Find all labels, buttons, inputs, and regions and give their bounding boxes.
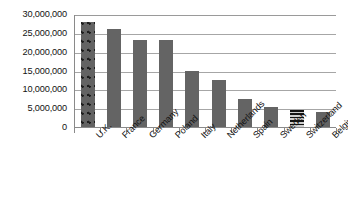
y-axis-tick-label: 10,000,000 xyxy=(23,86,67,95)
y-axis: 30,000,00025,000,00020,000,00015,000,000… xyxy=(0,0,70,200)
y-axis-tick-label: 0 xyxy=(62,123,67,132)
bar-slot xyxy=(179,15,205,127)
bar-series xyxy=(75,15,336,127)
y-axis-tick-label: 30,000,000 xyxy=(23,10,67,19)
x-axis-category-label: Germany xyxy=(147,133,154,140)
x-axis-category-label: France xyxy=(120,133,127,140)
bar-u-k xyxy=(81,22,95,127)
y-axis-tick-label: 25,000,000 xyxy=(23,29,67,38)
bar-slot xyxy=(284,15,310,127)
bar-chart: 30,000,00025,000,00020,000,00015,000,000… xyxy=(0,0,348,200)
x-axis: U.K.FranceGermanyPolandItalyNetherlandsS… xyxy=(74,133,348,200)
bar-france xyxy=(107,29,121,127)
bar-slot xyxy=(127,15,153,127)
x-axis-category-label: Netherlands xyxy=(225,133,232,140)
y-axis-tick-label: 20,000,000 xyxy=(23,48,67,57)
x-axis-category-label: Switzerland xyxy=(304,133,311,140)
x-axis-category-label: Italy xyxy=(199,133,206,140)
y-axis-tick-label: 5,000,000 xyxy=(27,105,67,114)
x-axis-category-label: U.K. xyxy=(94,133,101,140)
x-axis-category-label: Sweden xyxy=(278,133,285,140)
bar-slot xyxy=(101,15,127,127)
plot-area xyxy=(74,15,336,128)
x-axis-category-label: Poland xyxy=(173,133,180,140)
bar-slot xyxy=(205,15,231,127)
y-axis-tick-label: 15,000,000 xyxy=(23,67,67,76)
bar-netherlands xyxy=(212,80,226,127)
x-axis-category-label: Spain xyxy=(251,133,258,140)
bar-slot xyxy=(75,15,101,127)
x-axis-category-label: Belgium xyxy=(330,133,337,140)
